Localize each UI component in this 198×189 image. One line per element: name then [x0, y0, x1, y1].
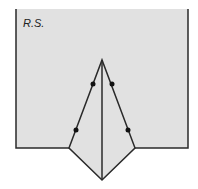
reference-dot	[74, 128, 79, 133]
reference-dot	[91, 82, 96, 87]
reference-dot	[110, 82, 115, 87]
reference-dot	[126, 128, 131, 133]
side-label: R.S.	[23, 17, 44, 29]
